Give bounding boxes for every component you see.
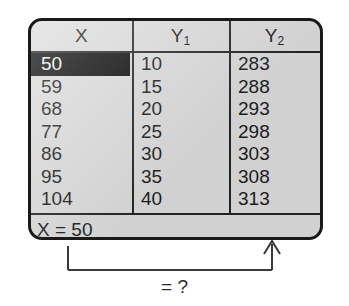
cell-y2[interactable]: 283 (238, 53, 320, 76)
table-row[interactable]: 95 35 308 (31, 166, 320, 189)
status-separator-rule (31, 213, 320, 215)
status-line: X = 50 (37, 217, 92, 240)
table-row[interactable]: 104 40 313 (31, 188, 320, 211)
cell-x[interactable]: 86 (41, 143, 129, 166)
column-header-y2-subscript: 2 (278, 34, 285, 48)
table-header-row: X Y1 Y2 (31, 21, 320, 51)
column-header-y1-label: Y (171, 25, 184, 46)
cell-y2[interactable]: 313 (238, 188, 320, 211)
annotation-bracket-group: = ? (0, 238, 349, 306)
cell-y1[interactable]: 35 (141, 166, 227, 189)
cell-y2[interactable]: 293 (238, 98, 320, 121)
cell-y1[interactable]: 10 (141, 53, 227, 76)
column-header-x-label: X (75, 25, 88, 46)
cell-x[interactable]: 104 (41, 188, 129, 211)
cell-x[interactable]: 68 (41, 98, 129, 121)
column-header-y1[interactable]: Y1 (132, 24, 229, 48)
table-row[interactable]: 77 25 298 (31, 121, 320, 144)
cell-y2[interactable]: 288 (238, 76, 320, 99)
cell-y2[interactable]: 298 (238, 121, 320, 144)
cell-y2[interactable]: 308 (238, 166, 320, 189)
cell-x[interactable]: 77 (41, 121, 129, 144)
calculator-screen: X Y1 Y2 50 10 283 59 15 288 (28, 18, 323, 240)
cell-y2[interactable]: 303 (238, 143, 320, 166)
table-view: X Y1 Y2 50 10 283 59 15 288 (31, 21, 320, 237)
column-header-y2[interactable]: Y2 (229, 24, 320, 48)
cell-y1[interactable]: 25 (141, 121, 227, 144)
annotation-label: = ? (0, 276, 349, 298)
cell-y1[interactable]: 30 (141, 143, 227, 166)
annotation-bracket-svg (0, 238, 349, 278)
column-header-x[interactable]: X (31, 24, 132, 48)
table-row[interactable]: 50 10 283 (31, 53, 320, 76)
column-header-y2-label: Y (265, 25, 278, 46)
column-header-y1-subscript: 1 (184, 34, 191, 48)
table-row[interactable]: 59 15 288 (31, 76, 320, 99)
cell-y1[interactable]: 40 (141, 188, 227, 211)
table-body: 50 10 283 59 15 288 68 20 293 77 25 298 … (31, 53, 320, 213)
cell-x[interactable]: 50 (31, 53, 130, 76)
cell-x[interactable]: 95 (41, 166, 129, 189)
table-row[interactable]: 86 30 303 (31, 143, 320, 166)
table-row[interactable]: 68 20 293 (31, 98, 320, 121)
cell-y1[interactable]: 15 (141, 76, 227, 99)
cell-x[interactable]: 59 (41, 76, 129, 99)
cell-y1[interactable]: 20 (141, 98, 227, 121)
